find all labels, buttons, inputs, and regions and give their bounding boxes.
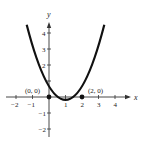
x-axis-arrow-icon <box>125 95 131 99</box>
x-tick-label: 1 <box>64 101 68 109</box>
y-tick-label: 3 <box>42 46 46 54</box>
point-2-0: (2, 0) <box>80 87 104 99</box>
y-tick-label: 2 <box>42 62 46 70</box>
y-tick-label: −2 <box>39 126 47 134</box>
x-tick-label: 3 <box>97 101 101 109</box>
y-axis: y <box>46 10 51 137</box>
y-tick-label: −1 <box>39 110 47 118</box>
y-axis-arrow-icon <box>47 22 51 28</box>
x-tick-label: 4 <box>114 101 118 109</box>
x-tick-label: 2 <box>81 101 85 109</box>
y-axis-label: y <box>46 10 51 19</box>
point-label-origin: (0, 0) <box>25 87 41 95</box>
point-origin: (0, 0) <box>25 87 51 99</box>
x-tick-label: −2 <box>11 101 19 109</box>
parabola-graph: x y −2 −1 1 2 3 4 4 3 2 −1 −2 <box>0 0 147 147</box>
point-label-2-0: (2, 0) <box>88 87 104 95</box>
y-tick-label: 4 <box>42 30 46 38</box>
x-axis-label: x <box>133 93 138 102</box>
x-tick-label: −1 <box>28 101 36 109</box>
